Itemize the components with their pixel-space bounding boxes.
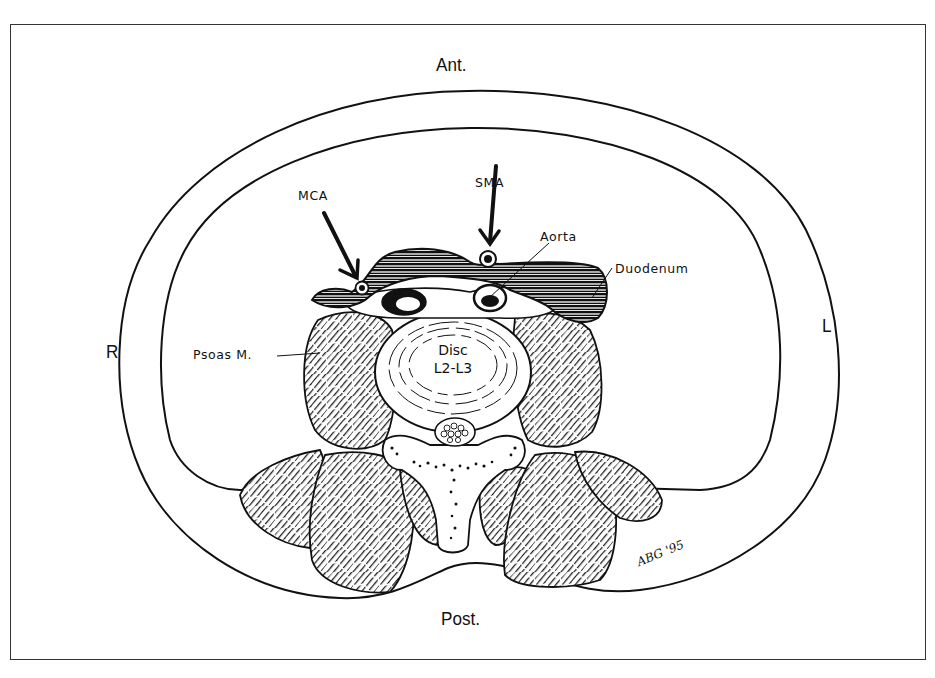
label-disc-line1: Disc bbox=[418, 341, 488, 359]
label-anterior: Ant. bbox=[436, 54, 466, 76]
label-left: L bbox=[822, 315, 832, 337]
label-right: R bbox=[106, 341, 118, 363]
label-sma: SMA bbox=[475, 175, 504, 190]
cross-section-diagram bbox=[0, 0, 935, 678]
label-mca: MCA bbox=[298, 188, 328, 203]
mca-lumen bbox=[359, 285, 365, 291]
erector-spinae-right bbox=[310, 452, 414, 592]
label-aorta: Aorta bbox=[540, 229, 577, 244]
label-psoas: Psoas M. bbox=[193, 347, 252, 362]
spinal-canal bbox=[435, 418, 475, 446]
label-disc-line2: L2-L3 bbox=[418, 359, 488, 377]
sma-lumen bbox=[484, 255, 492, 263]
label-disc: Disc L2-L3 bbox=[418, 341, 488, 377]
label-posterior: Post. bbox=[441, 608, 480, 630]
ivc-lumen bbox=[396, 297, 420, 311]
label-duodenum: Duodenum bbox=[615, 261, 689, 276]
